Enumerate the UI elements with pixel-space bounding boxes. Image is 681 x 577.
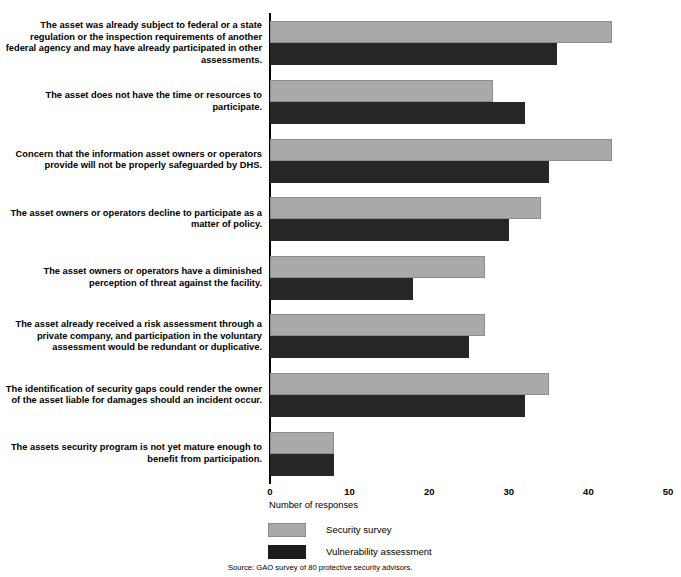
bar-fill	[270, 219, 509, 241]
legend-item-security-survey: Security survey	[268, 520, 432, 539]
category-label: The identification of security gaps coul…	[4, 384, 262, 407]
bar-chart: The asset was already subject to federal…	[0, 0, 681, 577]
category-label: The assets security program is not yet m…	[4, 442, 262, 465]
bar-group	[270, 197, 668, 241]
bar-vulnerability-assessment	[270, 278, 413, 300]
category-label: The asset was already subject to federal…	[4, 20, 262, 66]
bar-group	[270, 256, 668, 300]
plot-area	[270, 14, 668, 483]
legend: Security survey Vulnerability assessment	[268, 520, 432, 564]
bar-fill	[270, 80, 493, 102]
legend-label-security-survey: Security survey	[326, 524, 392, 535]
bar-group	[270, 373, 668, 417]
bar-vulnerability-assessment	[270, 454, 334, 476]
bar-security-survey	[270, 139, 612, 161]
bar-fill	[270, 139, 612, 161]
bar-fill	[270, 395, 525, 417]
bar-security-survey	[270, 256, 485, 278]
bar-security-survey	[270, 21, 612, 43]
x-axis-tick: 10	[344, 486, 355, 497]
bar-vulnerability-assessment	[270, 43, 557, 65]
legend-swatch-security-survey	[268, 523, 306, 537]
bar-fill	[270, 373, 549, 395]
bar-group	[270, 314, 668, 358]
legend-swatch-vulnerability-assessment	[268, 545, 306, 559]
bar-group	[270, 80, 668, 124]
bar-security-survey	[270, 373, 549, 395]
category-label: The asset does not have the time or reso…	[4, 90, 262, 113]
x-axis-tick: 0	[267, 486, 272, 497]
bar-vulnerability-assessment	[270, 395, 525, 417]
bar-group	[270, 432, 668, 476]
bar-fill	[270, 197, 541, 219]
bar-fill	[270, 256, 485, 278]
category-label: The asset owners or operators decline to…	[4, 208, 262, 231]
bar-group	[270, 139, 668, 183]
bar-fill	[270, 21, 612, 43]
bar-security-survey	[270, 197, 541, 219]
x-axis-tick: 40	[583, 486, 594, 497]
category-label: The asset owners or operators have a dim…	[4, 266, 262, 289]
source-note: Source: GAO survey of 80 protective secu…	[228, 563, 412, 572]
x-axis-title: Number of responses	[269, 500, 358, 510]
bar-fill	[270, 161, 549, 183]
bar-fill	[270, 432, 334, 454]
bar-vulnerability-assessment	[270, 219, 509, 241]
bar-fill	[270, 454, 334, 476]
bar-security-survey	[270, 314, 485, 336]
bar-security-survey	[270, 80, 493, 102]
bar-group	[270, 21, 668, 65]
x-axis-tick: 50	[663, 486, 674, 497]
bar-security-survey	[270, 432, 334, 454]
bar-fill	[270, 314, 485, 336]
bar-fill	[270, 278, 413, 300]
category-label: Concern that the information asset owner…	[4, 149, 262, 172]
x-axis-tick: 30	[504, 486, 515, 497]
bar-fill	[270, 102, 525, 124]
bar-vulnerability-assessment	[270, 161, 549, 183]
x-axis-tick: 20	[424, 486, 435, 497]
legend-label-vulnerability-assessment: Vulnerability assessment	[326, 546, 432, 557]
bar-vulnerability-assessment	[270, 336, 469, 358]
bar-vulnerability-assessment	[270, 102, 525, 124]
bar-fill	[270, 336, 469, 358]
bar-fill	[270, 43, 557, 65]
legend-item-vulnerability-assessment: Vulnerability assessment	[268, 542, 432, 561]
category-label: The asset already received a risk assess…	[4, 319, 262, 353]
